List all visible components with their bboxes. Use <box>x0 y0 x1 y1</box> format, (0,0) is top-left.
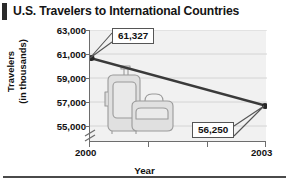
page-title: U.S. Travelers to International Countrie… <box>13 5 239 17</box>
y-tick-label-61000: 61,000 <box>57 50 86 60</box>
chart-container: Travelers (in thousands) 63,000 61,000 5… <box>0 22 289 182</box>
callout-value-2003: 56,250 <box>192 122 234 138</box>
chart-page: U.S. Travelers to International Countrie… <box>0 0 289 182</box>
title-accent-bar <box>2 3 7 20</box>
callout-value-2000: 61,327 <box>112 28 154 44</box>
plot-svg <box>90 30 267 142</box>
x-axis-title: Year <box>0 165 289 176</box>
x-tick-label-2000: 2000 <box>75 148 96 158</box>
y-axis-title-line1: Travelers <box>5 51 16 92</box>
y-axis-title-line2: (in thousands) <box>16 24 28 120</box>
y-tick-label-63000: 63,000 <box>57 26 86 36</box>
y-tick-label-57000: 57,000 <box>57 98 86 108</box>
y-axis-title: Travelers (in thousands) <box>5 24 28 120</box>
x-tick-mark-2001 <box>148 142 149 147</box>
bottom-divider <box>3 176 286 178</box>
x-tick-mark-2002 <box>207 142 208 147</box>
y-tick-label-59000: 59,000 <box>57 74 86 84</box>
title-block: U.S. Travelers to International Countrie… <box>0 0 289 22</box>
plot-area <box>89 30 266 142</box>
x-tick-label-2003: 2003 <box>251 148 272 158</box>
luggage-illustration <box>105 66 173 134</box>
y-axis-break-icon <box>82 120 98 144</box>
